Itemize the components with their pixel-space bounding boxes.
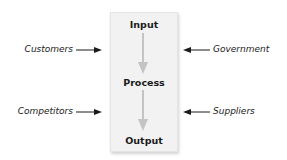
label-suppliers: Suppliers [213, 106, 255, 116]
arrow-left-icon [183, 47, 210, 53]
flow-arrow-down-icon [138, 33, 148, 74]
label-government: Government [213, 44, 269, 54]
label-customers: Customers [25, 44, 73, 54]
label-competitors: Competitors [18, 106, 73, 116]
arrow-right-icon [76, 109, 102, 115]
flow-arrow-down-icon [138, 90, 148, 131]
arrows-layer [0, 0, 287, 160]
arrow-left-icon [183, 109, 210, 115]
arrow-right-icon [76, 47, 102, 53]
